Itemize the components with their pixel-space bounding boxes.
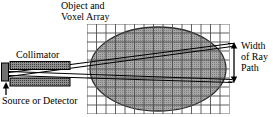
width-of-ray-path-label: Width of Ray Path bbox=[241, 41, 268, 73]
source-detector-block bbox=[2, 63, 9, 81]
collimator-lower-bar bbox=[10, 78, 70, 86]
collimator-upper-bar bbox=[10, 62, 70, 70]
collimator-label: Collimator bbox=[16, 50, 59, 61]
source-or-detector-label: Source or Detector bbox=[2, 96, 78, 107]
source-pointer-arrow bbox=[3, 82, 9, 95]
object-and-voxel-array-label: Object and Voxel Array bbox=[61, 1, 109, 23]
tomography-ray-path-figure: Object and Voxel Array Collimator Source… bbox=[0, 0, 273, 117]
